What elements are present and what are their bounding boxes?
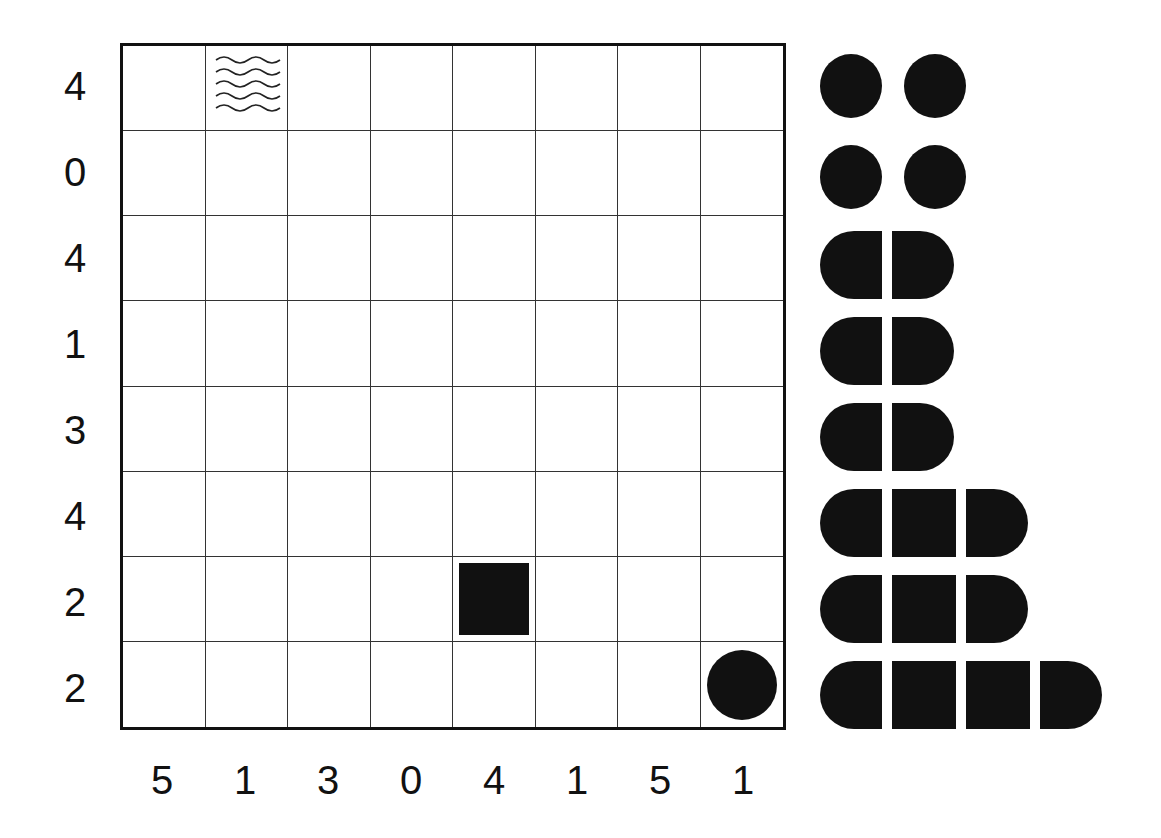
ship-end-left-icon <box>820 575 882 643</box>
grid-cell[interactable] <box>618 387 701 472</box>
grid-cell[interactable] <box>123 557 206 642</box>
col-clue: 1 <box>713 760 773 800</box>
grid-cell[interactable] <box>701 216 784 301</box>
grid-cell[interactable] <box>123 216 206 301</box>
grid-cell[interactable] <box>618 131 701 216</box>
grid-cell[interactable] <box>618 216 701 301</box>
grid-cell[interactable] <box>206 216 289 301</box>
grid-cell[interactable] <box>536 131 619 216</box>
grid-cell[interactable] <box>371 46 454 131</box>
grid-cell[interactable] <box>123 301 206 386</box>
row-clue: 4 <box>50 238 100 278</box>
grid-cell[interactable] <box>206 557 289 642</box>
grid-cell[interactable] <box>701 46 784 131</box>
grid-cell[interactable] <box>453 642 536 727</box>
grid-cell[interactable] <box>123 131 206 216</box>
ship-middle-icon <box>892 575 956 643</box>
grid-cell[interactable] <box>453 301 536 386</box>
grid-cell[interactable] <box>206 46 289 131</box>
grid-cell[interactable] <box>536 642 619 727</box>
grid-cell[interactable] <box>618 301 701 386</box>
grid-cell[interactable] <box>453 387 536 472</box>
grid-cell[interactable] <box>701 472 784 557</box>
col-clue: 1 <box>547 760 607 800</box>
water-icon <box>214 52 282 120</box>
grid-cell[interactable] <box>371 216 454 301</box>
grid-cell[interactable] <box>453 216 536 301</box>
ship-end-right-icon <box>892 403 954 471</box>
ship-end-left-icon <box>820 661 882 729</box>
grid-cell[interactable] <box>453 557 536 642</box>
grid-cell[interactable] <box>536 557 619 642</box>
row-clue: 4 <box>50 66 100 106</box>
grid-cell[interactable] <box>701 301 784 386</box>
grid-cell[interactable] <box>206 301 289 386</box>
col-clue: 1 <box>215 760 275 800</box>
ship-middle-icon <box>892 661 956 729</box>
ship-end-right-icon <box>966 575 1028 643</box>
grid-cell[interactable] <box>206 387 289 472</box>
grid-cell[interactable] <box>453 131 536 216</box>
row-clue: 0 <box>50 152 100 192</box>
grid-cell[interactable] <box>536 301 619 386</box>
col-clue: 0 <box>381 760 441 800</box>
grid-cell[interactable] <box>288 387 371 472</box>
grid-cell[interactable] <box>288 216 371 301</box>
grid-cell[interactable] <box>453 46 536 131</box>
grid-cell[interactable] <box>536 46 619 131</box>
grid-cell[interactable] <box>206 131 289 216</box>
ship-end-left-icon <box>820 317 882 385</box>
grid-cell[interactable] <box>123 642 206 727</box>
grid-cell[interactable] <box>123 387 206 472</box>
grid-cell[interactable] <box>206 642 289 727</box>
row-clue: 2 <box>50 668 100 708</box>
grid-cell[interactable] <box>288 301 371 386</box>
grid-cell[interactable] <box>288 557 371 642</box>
grid-cell[interactable] <box>288 642 371 727</box>
grid-cell[interactable] <box>536 472 619 557</box>
col-clue: 3 <box>298 760 358 800</box>
row-clue: 2 <box>50 582 100 622</box>
ship-middle-icon <box>966 661 1030 729</box>
grid-cell[interactable] <box>206 472 289 557</box>
grid-cell[interactable] <box>371 472 454 557</box>
row-clue: 4 <box>50 496 100 536</box>
grid-cell[interactable] <box>123 46 206 131</box>
submarine-icon <box>707 650 777 720</box>
grid-cell[interactable] <box>618 46 701 131</box>
grid-cell[interactable] <box>371 387 454 472</box>
grid-cell[interactable] <box>288 131 371 216</box>
grid-cell[interactable] <box>618 472 701 557</box>
grid-cell[interactable] <box>453 472 536 557</box>
grid-cell[interactable] <box>371 131 454 216</box>
ship-end-right-icon <box>966 489 1028 557</box>
fleet-row-destroyer <box>820 317 954 385</box>
grid-cell[interactable] <box>371 642 454 727</box>
grid-cell[interactable] <box>618 557 701 642</box>
grid-cell[interactable] <box>123 472 206 557</box>
grid-cell[interactable] <box>701 642 784 727</box>
row-clue: 1 <box>50 324 100 364</box>
fleet-row-cruiser <box>820 489 1028 557</box>
submarine-icon <box>904 145 966 209</box>
grid-cell[interactable] <box>618 642 701 727</box>
fleet-row-cruiser <box>820 575 1028 643</box>
ship-end-right-icon <box>1040 661 1102 729</box>
grid-cell[interactable] <box>701 387 784 472</box>
submarine-icon <box>820 54 882 118</box>
grid-cell[interactable] <box>371 557 454 642</box>
grid-cell[interactable] <box>288 472 371 557</box>
col-clue: 5 <box>630 760 690 800</box>
ship-end-right-icon <box>892 231 954 299</box>
grid-cell[interactable] <box>536 387 619 472</box>
grid-cell[interactable] <box>701 557 784 642</box>
ship-middle-icon <box>892 489 956 557</box>
grid-cell[interactable] <box>701 131 784 216</box>
grid-cell[interactable] <box>371 301 454 386</box>
grid-cell[interactable] <box>288 46 371 131</box>
grid-cell[interactable] <box>536 216 619 301</box>
ship-middle-icon <box>459 563 529 635</box>
fleet-row-destroyer <box>820 403 954 471</box>
col-clue: 5 <box>132 760 192 800</box>
fleet-row-destroyer <box>820 231 954 299</box>
